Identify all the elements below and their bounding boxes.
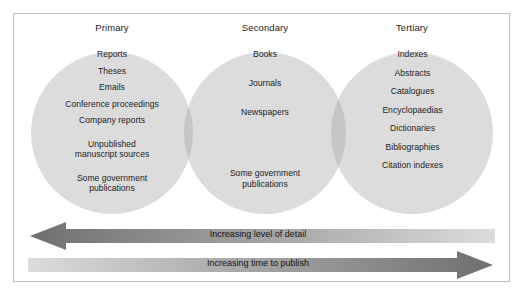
arrow-group <box>0 0 527 299</box>
arrow-label-publish: Increasing time to publish <box>28 258 488 268</box>
arrow-label-detail: Increasing level of detail <box>28 229 488 239</box>
venn-diagram-figure: Primary Secondary Tertiary Reports These… <box>0 0 527 299</box>
